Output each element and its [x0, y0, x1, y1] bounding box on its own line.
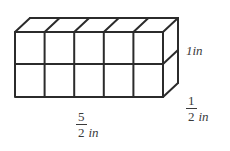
prism-top-face — [15, 18, 178, 32]
depth-numerator: 1 — [186, 94, 197, 107]
top-left-oblique-edge — [15, 18, 30, 32]
height-dimension-label: 1in — [186, 44, 203, 57]
right-face-mid-oblique-divider — [163, 50, 178, 64]
height-dimension-text: 1in — [186, 43, 203, 58]
depth-fraction-group: 1 2 in — [186, 94, 209, 124]
depth-fraction: 1 2 — [186, 94, 197, 124]
length-dimension-label: 5 2 in — [76, 108, 99, 140]
rectangular-prism-diagram — [0, 0, 230, 151]
figure-stage: 1in 1 2 in 5 2 in — [0, 0, 230, 151]
top-divider-1 — [45, 18, 60, 32]
depth-dimension-label: 1 2 in — [186, 92, 209, 124]
depth-denominator: 2 — [186, 110, 197, 123]
top-divider-2 — [74, 18, 89, 32]
length-fraction: 5 2 — [76, 110, 87, 140]
length-unit: in — [89, 126, 99, 140]
length-denominator: 2 — [76, 126, 87, 139]
top-divider-3 — [104, 18, 119, 32]
top-divider-4 — [133, 18, 148, 32]
top-right-oblique-edge — [163, 18, 178, 32]
depth-unit: in — [199, 110, 209, 124]
length-fraction-group: 5 2 in — [76, 110, 99, 140]
top-face-cube-dividers — [45, 18, 149, 32]
bottom-right-oblique-edge — [163, 83, 178, 97]
length-numerator: 5 — [76, 110, 87, 123]
